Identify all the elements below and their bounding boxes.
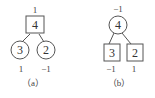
root-value-a: 4	[32, 18, 38, 32]
diagram-b: −1 4 3 −1 2 1 （b）	[104, 4, 143, 88]
left-label-b: −1	[106, 64, 116, 74]
edge-b-root-right	[122, 33, 131, 44]
left-value-a: 3	[17, 43, 23, 57]
root-value-b: 4	[115, 18, 121, 32]
right-label-b: 1	[132, 64, 137, 74]
root-label-b: −1	[113, 4, 123, 14]
left-label-a: 1	[19, 64, 24, 74]
left-value-b: 3	[109, 46, 115, 60]
caption-a: （a）	[22, 78, 44, 88]
edge-a-root-left	[22, 34, 30, 42]
tree-diagrams: 1 4 3 1 2 −1 （a） −1 4 3 −1 2 1 （b）	[0, 0, 155, 98]
root-label-a: 1	[33, 5, 38, 15]
diagram-a: 1 4 3 1 2 −1 （a）	[11, 5, 55, 88]
right-label-a: −1	[41, 64, 51, 74]
right-value-a: 2	[43, 43, 49, 57]
edge-b-root-left	[109, 33, 114, 44]
right-value-b: 2	[132, 46, 138, 60]
caption-b: （b）	[108, 78, 131, 88]
edge-a-root-right	[39, 34, 44, 42]
